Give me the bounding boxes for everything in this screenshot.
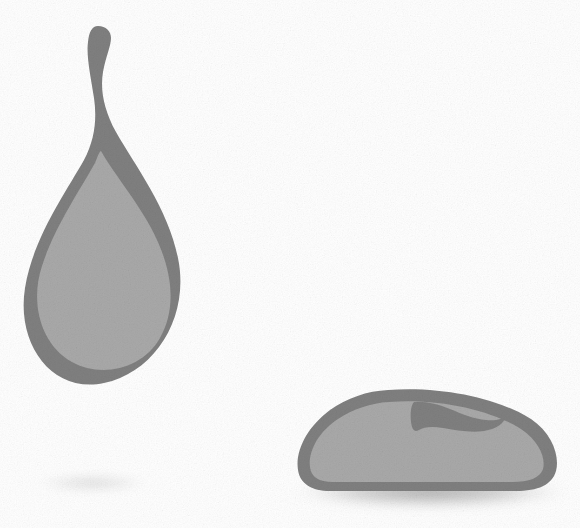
illustration-canvas: Two gray shapes on white background [0,0,580,528]
droplet-shadow [34,473,150,493]
shapes-svg [0,0,580,528]
